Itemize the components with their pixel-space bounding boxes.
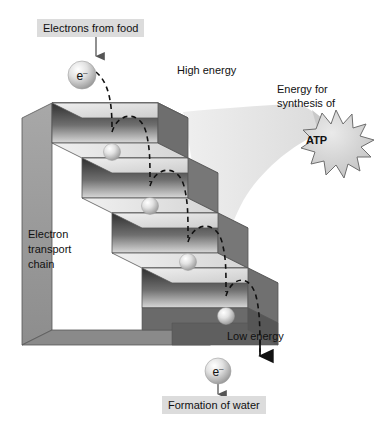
label-electrons-from-food: Electrons from food bbox=[37, 19, 144, 37]
etc-line-2: transport bbox=[28, 243, 71, 255]
label-high-energy: High energy bbox=[177, 64, 236, 77]
diagram-canvas: e– e– Electrons from food High energy Lo… bbox=[0, 0, 375, 422]
label-formation-of-water: Formation of water bbox=[162, 396, 266, 414]
label-low-energy: Low energy bbox=[227, 330, 284, 343]
energy-for-line-1: Energy for bbox=[277, 83, 328, 95]
electron-sphere-step-2 bbox=[142, 198, 159, 215]
label-energy-for-synthesis: Energy for synthesis of bbox=[277, 82, 335, 110]
etc-line-3: chain bbox=[28, 258, 54, 270]
electron-sphere-step-4 bbox=[218, 308, 235, 325]
etc-line-1: Electron bbox=[28, 228, 68, 240]
label-atp: ATP bbox=[306, 134, 327, 146]
electron-sphere-step-3 bbox=[180, 254, 197, 271]
energy-for-line-2: synthesis of bbox=[277, 97, 335, 109]
electron-sphere-step-1 bbox=[104, 144, 121, 161]
label-electron-transport-chain: Electron transport chain bbox=[28, 227, 71, 272]
